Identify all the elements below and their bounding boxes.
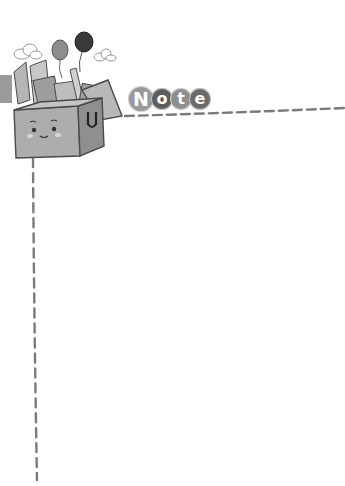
note-letter: e bbox=[189, 88, 211, 110]
vertical-dashed-line bbox=[33, 158, 37, 480]
note-title-badge: N o t e bbox=[128, 85, 211, 113]
book-edge-icon bbox=[0, 75, 12, 103]
cloud-icon bbox=[94, 49, 116, 61]
cloud-icon bbox=[14, 44, 42, 59]
balloon-icon bbox=[52, 40, 68, 78]
balloon-icon bbox=[75, 32, 93, 72]
page-decoration bbox=[0, 0, 345, 486]
